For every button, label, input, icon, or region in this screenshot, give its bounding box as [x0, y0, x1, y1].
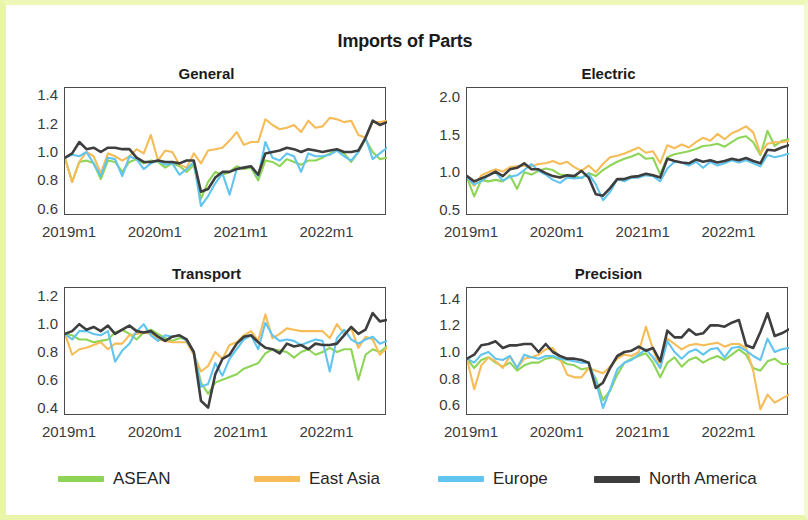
- panel-precision: Precision0.60.81.01.21.42019m12020m12021…: [426, 265, 791, 450]
- series-line: [467, 339, 789, 408]
- legend-swatch-icon: [594, 476, 640, 483]
- y-tick-label: 1.2: [37, 287, 58, 304]
- panel-title: General: [24, 65, 389, 82]
- plot-area: [466, 287, 788, 415]
- legend-label: ASEAN: [113, 469, 171, 489]
- figure-canvas: Imports of Parts General0.60.81.01.21.42…: [0, 0, 808, 520]
- y-tick-label: 0.8: [439, 369, 460, 386]
- legend-item-europe[interactable]: Europe: [438, 469, 548, 489]
- series-line: [65, 330, 387, 394]
- plot-area: [64, 287, 386, 415]
- x-tick-label: 2022m1: [299, 423, 353, 440]
- legend-swatch-icon: [58, 476, 104, 482]
- legend-item-asean[interactable]: ASEAN: [58, 469, 171, 489]
- panel-title: Transport: [24, 265, 389, 282]
- y-tick-label: 1.0: [37, 315, 58, 332]
- y-tick-label: 1.4: [439, 289, 460, 306]
- x-tick-label: 2019m1: [444, 223, 498, 240]
- x-tick-label: 2020m1: [530, 423, 584, 440]
- y-tick-label: 0.8: [37, 343, 58, 360]
- chart-legend: ASEANEast AsiaEuropeNorth America: [6, 469, 804, 495]
- legend-item-north-america[interactable]: North America: [594, 469, 757, 489]
- x-tick-label: 2021m1: [616, 423, 670, 440]
- y-tick-label: 1.2: [37, 114, 58, 131]
- legend-label: Europe: [493, 469, 548, 489]
- x-tick-label: 2022m1: [701, 223, 755, 240]
- y-tick-label: 0.6: [439, 396, 460, 413]
- legend-label: East Asia: [309, 469, 380, 489]
- panel-transport: Transport0.40.60.81.01.22019m12020m12021…: [24, 265, 389, 450]
- y-tick-label: 1.0: [439, 343, 460, 360]
- x-tick-label: 2020m1: [128, 223, 182, 240]
- y-tick-label: 0.6: [37, 370, 58, 387]
- x-tick-label: 2022m1: [701, 423, 755, 440]
- plot-area: [64, 87, 386, 215]
- legend-swatch-icon: [438, 476, 484, 482]
- x-tick-label: 2021m1: [214, 423, 268, 440]
- series-line: [467, 131, 789, 197]
- y-tick-label: 1.5: [439, 125, 460, 142]
- series-line: [467, 349, 789, 400]
- y-tick-label: 2.0: [439, 88, 460, 105]
- y-tick-label: 1.0: [37, 143, 58, 160]
- x-tick-label: 2022m1: [299, 223, 353, 240]
- figure-title: Imports of Parts: [6, 31, 804, 52]
- y-tick-label: 0.8: [37, 171, 58, 188]
- x-tick-label: 2020m1: [128, 423, 182, 440]
- legend-swatch-icon: [254, 476, 300, 482]
- y-tick-label: 1.2: [439, 316, 460, 333]
- plot-area: [466, 87, 788, 215]
- legend-label: North America: [649, 469, 757, 489]
- panel-title: Electric: [426, 65, 791, 82]
- x-tick-label: 2021m1: [214, 223, 268, 240]
- panel-general: General0.60.81.01.21.42019m12020m12021m1…: [24, 65, 389, 250]
- x-tick-label: 2021m1: [616, 223, 670, 240]
- x-tick-label: 2019m1: [42, 223, 96, 240]
- y-tick-label: 1.0: [439, 163, 460, 180]
- x-tick-label: 2019m1: [42, 423, 96, 440]
- y-tick-label: 1.4: [37, 86, 58, 103]
- y-tick-label: 0.5: [439, 200, 460, 217]
- panel-title: Precision: [426, 265, 791, 282]
- x-tick-label: 2019m1: [444, 423, 498, 440]
- x-tick-label: 2020m1: [530, 223, 584, 240]
- legend-item-east-asia[interactable]: East Asia: [254, 469, 380, 489]
- panel-electric: Electric0.51.01.52.02019m12020m12021m120…: [426, 65, 791, 250]
- y-tick-label: 0.4: [37, 398, 58, 415]
- y-tick-label: 0.6: [37, 199, 58, 216]
